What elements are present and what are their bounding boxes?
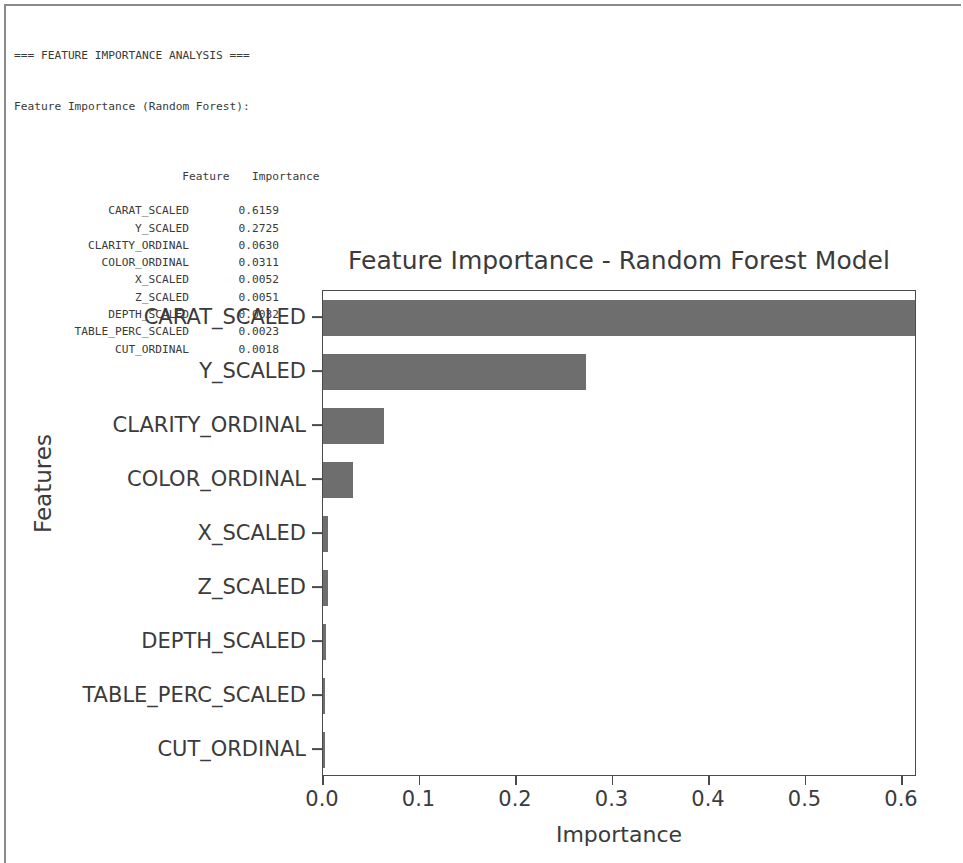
column-header-feature: Feature bbox=[54, 168, 229, 185]
bar-slot bbox=[323, 345, 586, 399]
chart-title: Feature Importance - Random Forest Model bbox=[322, 246, 916, 275]
x-axis-tick-mark bbox=[515, 776, 517, 785]
bar bbox=[323, 516, 328, 552]
y-axis-tick-mark bbox=[312, 478, 322, 480]
column-header-importance: Importance bbox=[229, 168, 319, 185]
x-axis-tick-mark bbox=[708, 776, 710, 785]
screenshot-root: === FEATURE IMPORTANCE ANALYSIS === Feat… bbox=[0, 0, 963, 863]
x-axis-tick-label: 0.5 bbox=[788, 787, 821, 811]
x-axis-tick-label: 0.1 bbox=[402, 787, 435, 811]
y-axis-tick-mark bbox=[312, 532, 322, 534]
y-axis-tick-mark bbox=[312, 640, 322, 642]
x-axis-tick-mark bbox=[322, 776, 324, 785]
feature-name-cell: CARAT_SCALED bbox=[14, 202, 189, 219]
x-axis-tick-label: 0.4 bbox=[691, 787, 724, 811]
x-axis-tick-mark bbox=[419, 776, 421, 785]
bar bbox=[323, 300, 916, 336]
bar-slot bbox=[323, 723, 325, 776]
feature-importance-cell: 0.6159 bbox=[189, 202, 279, 219]
bar bbox=[323, 408, 384, 444]
x-axis-tick-mark bbox=[805, 776, 807, 785]
bar bbox=[323, 732, 325, 768]
bar bbox=[323, 354, 586, 390]
y-axis-tick-mark bbox=[312, 316, 322, 318]
x-axis-tick-label: 0.6 bbox=[884, 787, 917, 811]
bar bbox=[323, 462, 353, 498]
analysis-subheader: Feature Importance (Random Forest): bbox=[14, 98, 314, 115]
x-axis-tick-label: 0.2 bbox=[498, 787, 531, 811]
x-axis-tick-marks bbox=[322, 776, 916, 786]
bar-slot bbox=[323, 507, 328, 561]
x-axis-title: Importance bbox=[322, 822, 916, 847]
y-axis-tick-mark bbox=[312, 748, 322, 750]
bar bbox=[323, 570, 328, 606]
bar-slot bbox=[323, 291, 916, 345]
bar-slot bbox=[323, 453, 353, 507]
table-row: CARAT_SCALED0.6159 bbox=[14, 202, 314, 219]
y-axis-tick-mark bbox=[312, 694, 322, 696]
analysis-header: === FEATURE IMPORTANCE ANALYSIS === bbox=[14, 47, 314, 64]
feature-importance-chart: Feature Importance - Random Forest Model… bbox=[0, 236, 963, 863]
x-axis-tick-label: 0.3 bbox=[595, 787, 628, 811]
table-header-row: FeatureImportance bbox=[14, 150, 314, 167]
bar-slot bbox=[323, 399, 384, 453]
bar-slot bbox=[323, 561, 328, 615]
plot-area bbox=[322, 290, 916, 776]
table-row: Y_SCALED0.2725 bbox=[14, 220, 314, 237]
bar-slot bbox=[323, 615, 326, 669]
bar bbox=[323, 678, 325, 714]
x-axis-tick-labels: 0.00.10.20.30.40.50.6 bbox=[322, 787, 916, 817]
x-axis-tick-mark bbox=[901, 776, 903, 785]
x-axis-tick-mark bbox=[612, 776, 614, 785]
feature-importance-cell: 0.2725 bbox=[189, 220, 279, 237]
y-axis-tick-marks bbox=[0, 290, 322, 776]
y-axis-tick-mark bbox=[312, 586, 322, 588]
x-axis-tick-label: 0.0 bbox=[305, 787, 338, 811]
feature-name-cell: Y_SCALED bbox=[14, 220, 189, 237]
bar-slot bbox=[323, 669, 325, 723]
y-axis-tick-mark bbox=[312, 424, 322, 426]
bar bbox=[323, 624, 326, 660]
y-axis-tick-mark bbox=[312, 370, 322, 372]
